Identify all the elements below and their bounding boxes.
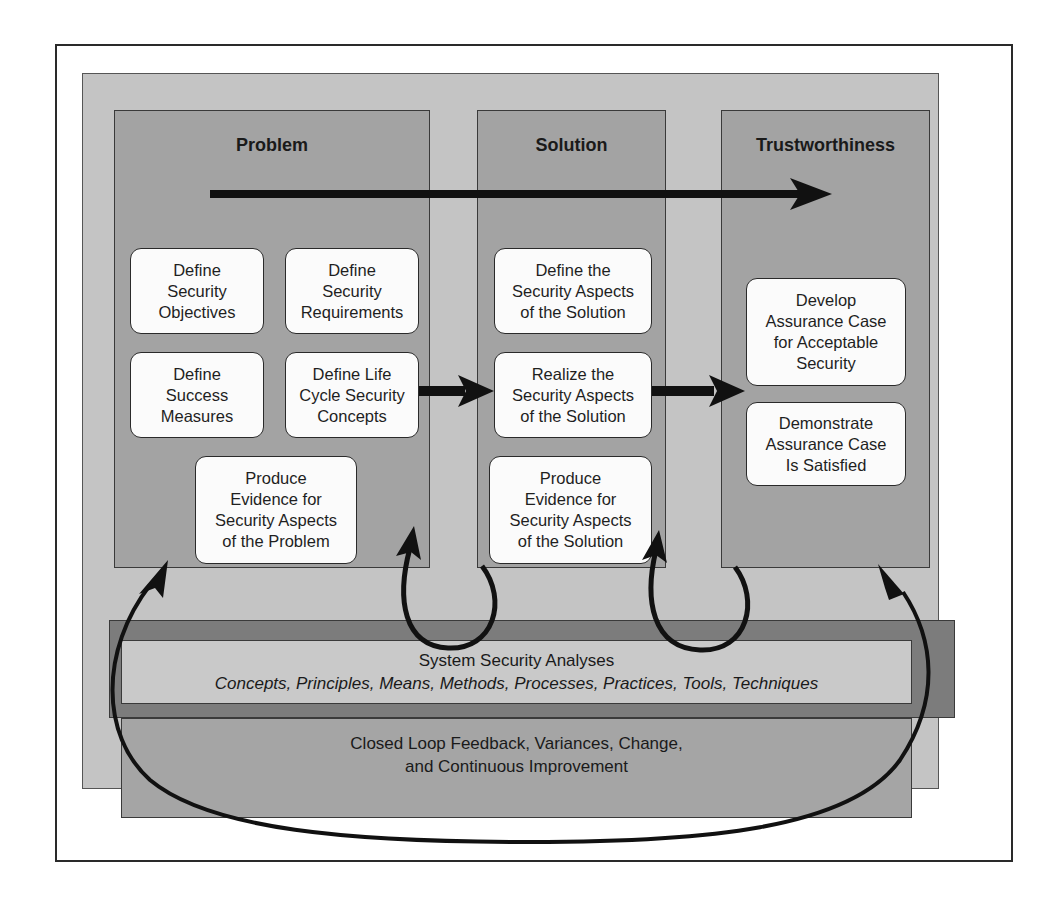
box-define-security-objectives: Define Security Objectives <box>130 248 264 334</box>
box-define-life-cycle-security-concepts: Define Life Cycle Security Concepts <box>285 352 419 438</box>
box-define-success-measures: Define Success Measures <box>130 352 264 438</box>
box-produce-evidence-problem: Produce Evidence for Security Aspects of… <box>195 456 357 564</box>
analysis-box: System Security Analyses Concepts, Princ… <box>121 640 912 704</box>
box-define-security-aspects-solution: Define the Security Aspects of the Solut… <box>494 248 652 334</box>
box-realize-security-aspects-solution: Realize the Security Aspects of the Solu… <box>494 352 652 438</box>
panel-title-trustworthiness: Trustworthiness <box>722 135 929 156</box>
box-define-security-requirements: Define Security Requirements <box>285 248 419 334</box>
box-demonstrate-assurance-case: Demonstrate Assurance Case Is Satisfied <box>746 402 906 486</box>
box-develop-assurance-case: Develop Assurance Case for Acceptable Se… <box>746 278 906 386</box>
feedback-box: Closed Loop Feedback, Variances, Change,… <box>121 718 912 818</box>
panel-title-problem: Problem <box>115 135 429 156</box>
analysis-title: System Security Analyses <box>122 649 911 672</box>
box-produce-evidence-solution: Produce Evidence for Security Aspects of… <box>489 456 652 564</box>
panel-title-solution: Solution <box>478 135 665 156</box>
analysis-subtitle: Concepts, Principles, Means, Methods, Pr… <box>122 672 911 695</box>
